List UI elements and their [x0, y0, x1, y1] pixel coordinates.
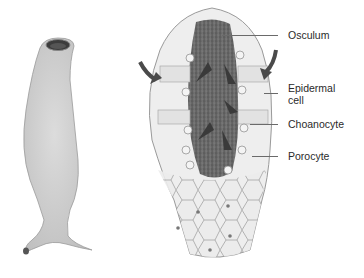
label-choanocyte: Choanocyte: [288, 118, 344, 130]
porocyte-leader-line: [252, 156, 278, 157]
label-epidermal-cell: Epidermal cell: [288, 82, 335, 106]
whole-sponge-illustration: [0, 0, 364, 278]
inflow-arrow-right: [266, 50, 276, 72]
label-osculum: Osculum: [288, 29, 329, 41]
sponge-body: [24, 38, 92, 252]
osculum-leader-line: [222, 35, 278, 36]
label-porocyte: Porocyte: [288, 150, 329, 162]
sponge-diagram: Osculum Epidermal cell Choanocyte Porocy…: [0, 0, 364, 278]
label-epidermal-line1: Epidermal: [288, 82, 335, 94]
epidermal-leader-line: [264, 93, 278, 94]
label-epidermal-line2: cell: [288, 94, 335, 106]
spongocoel: [188, 19, 238, 177]
cross-section: [149, 8, 271, 257]
choanocyte-leader-line: [250, 124, 278, 125]
